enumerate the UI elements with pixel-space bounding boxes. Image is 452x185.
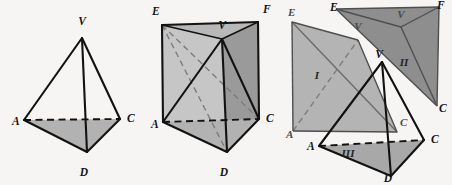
- edge-A-C-hidden: [24, 119, 120, 120]
- label-E-piece-2: E: [329, 1, 338, 13]
- piece-I-edge-A-C: [293, 131, 397, 132]
- label-E-panel2: E: [151, 5, 160, 17]
- label-F-panel2: F: [262, 3, 271, 15]
- geometry-figure: V A C D E F V A: [0, 0, 452, 185]
- edge-E-A: [162, 25, 163, 122]
- label-E-piece-1: E: [287, 6, 295, 18]
- label-A-panel1: A: [11, 115, 20, 127]
- label-V-piece-3: V: [375, 48, 384, 60]
- label-C-piece-1: C: [400, 116, 408, 128]
- label-D-piece-3: D: [383, 172, 393, 184]
- label-C-panel1: C: [127, 112, 135, 124]
- label-A-panel2: A: [150, 118, 159, 130]
- label-V-panel2: V: [218, 19, 227, 31]
- label-C-piece-3: C: [431, 133, 439, 145]
- label-C-panel2: C: [266, 112, 274, 124]
- label-A-piece-3: A: [306, 140, 315, 152]
- label-A-piece-1: A: [285, 128, 293, 140]
- label-D-panel2: D: [219, 166, 229, 178]
- label-D-panel1: D: [79, 166, 89, 178]
- piece-I-edge-E-A: [292, 22, 293, 131]
- label-piece-I: I: [314, 69, 320, 81]
- label-C-piece-2: C: [439, 102, 447, 114]
- label-piece-III: III: [341, 147, 356, 159]
- label-V-panel1: V: [78, 15, 87, 27]
- figure-canvas: V A C D E F V A: [0, 0, 452, 185]
- edge-F-C: [258, 22, 259, 119]
- label-piece-II: II: [399, 56, 409, 68]
- label-F-piece-2: F: [436, 0, 445, 11]
